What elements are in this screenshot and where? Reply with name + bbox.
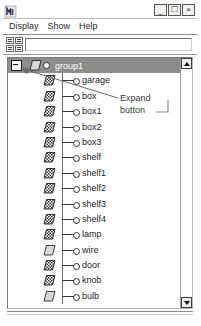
plain-parallelogram-icon (28, 59, 43, 72)
scroll-up-button[interactable] (181, 58, 192, 69)
tree-row[interactable]: shelf2 (8, 181, 180, 196)
node-dot-icon (73, 186, 80, 193)
application-window: _ □ × Display Show Help group1garageboxb… (3, 1, 197, 321)
node-dot-icon (73, 263, 80, 270)
tree-scrollbar[interactable] (180, 58, 192, 308)
menu-bar: Display Show Help (3, 19, 197, 35)
window-bottom-edge (7, 311, 193, 315)
tree-row-label: group1 (54, 61, 83, 71)
node-dot-icon (73, 109, 80, 116)
node-dot-icon (73, 202, 80, 209)
tree-row-label: shelf4 (82, 214, 106, 224)
tree-row-label: wire (82, 245, 99, 255)
hatched-parallelogram-icon (42, 136, 57, 149)
plain-parallelogram-icon (42, 290, 57, 303)
hatched-parallelogram-icon (42, 167, 57, 180)
tree-row-label: shelf1 (82, 168, 106, 178)
menu-item-display[interactable]: Display (9, 21, 39, 32)
menu-item-show[interactable]: Show (48, 21, 71, 32)
tree-row-label: door (82, 260, 100, 270)
hatched-parallelogram-icon (42, 105, 57, 118)
minimize-button[interactable]: _ (154, 4, 167, 16)
tree-row[interactable]: box1 (8, 104, 180, 119)
tree-row[interactable]: shelf3 (8, 197, 180, 212)
toolbar (3, 35, 197, 55)
hatched-parallelogram-icon (42, 274, 57, 287)
close-icon: × (183, 5, 194, 15)
node-dot-icon (73, 155, 80, 162)
tree-row-label: garage (82, 75, 110, 85)
node-dot-icon (73, 217, 80, 224)
tree-row-label: shelf2 (82, 183, 106, 193)
plain-parallelogram-icon (42, 244, 57, 257)
tree-row[interactable]: knob (8, 273, 180, 288)
tree-row-label: bulb (82, 291, 99, 301)
tree-row-label: lamp (82, 229, 102, 239)
hatched-parallelogram-icon (42, 74, 57, 87)
hatched-parallelogram-icon (42, 151, 57, 164)
hatched-parallelogram-icon (42, 90, 57, 103)
tree-row-label: box3 (82, 137, 102, 147)
tree-row-label: shelf (82, 152, 101, 162)
tree-row[interactable]: lamp (8, 227, 180, 242)
tree-list: group1garageboxbox1box2box3shelfshelf1sh… (8, 58, 180, 308)
search-input[interactable] (25, 38, 192, 51)
node-dot-icon (73, 125, 80, 132)
hatched-parallelogram-icon (42, 259, 57, 272)
node-dot-icon (43, 62, 50, 69)
app-logo-icon (4, 4, 17, 17)
node-grid-cell-1 (6, 37, 14, 44)
tree-panel: group1garageboxbox1box2box3shelfshelf1sh… (7, 57, 193, 309)
node-dot-icon (73, 294, 80, 301)
hatched-parallelogram-icon (42, 121, 57, 134)
tree-row-label: box (82, 91, 97, 101)
tree-row-label: box1 (82, 106, 102, 116)
maximize-icon: □ (169, 4, 180, 14)
node-grid-icon[interactable] (6, 37, 23, 52)
chevron-down-icon (184, 301, 190, 305)
node-dot-icon (73, 171, 80, 178)
node-grid-cell-2 (15, 37, 23, 44)
tree-row[interactable]: door (8, 258, 180, 273)
node-dot-icon (73, 78, 80, 85)
tree-row[interactable]: garage (8, 73, 180, 88)
hatched-parallelogram-icon (42, 182, 57, 195)
chevron-up-icon (184, 62, 190, 66)
menu-item-help[interactable]: Help (79, 21, 98, 32)
minimize-icon: _ (155, 6, 166, 16)
tree-row[interactable]: shelf1 (8, 166, 180, 181)
hatched-parallelogram-icon (42, 198, 57, 211)
node-dot-icon (73, 248, 80, 255)
tree-row[interactable]: box (8, 89, 180, 104)
scroll-down-button[interactable] (181, 297, 192, 308)
hatched-parallelogram-icon (42, 228, 57, 241)
tree-row[interactable]: wire (8, 243, 180, 258)
tree-row-label: knob (82, 275, 102, 285)
node-dot-icon (73, 94, 80, 101)
tree-row[interactable]: box3 (8, 135, 180, 150)
close-button[interactable]: × (182, 4, 195, 16)
maximize-button[interactable]: □ (168, 4, 181, 16)
tree-row[interactable]: box2 (8, 120, 180, 135)
tree-row-root[interactable]: group1 (8, 58, 180, 73)
tree-row[interactable]: shelf (8, 150, 180, 165)
tree-row[interactable]: bulb (8, 289, 180, 304)
hatched-parallelogram-icon (42, 213, 57, 226)
node-grid-cell-4 (15, 45, 23, 52)
node-dot-icon (73, 140, 80, 147)
tree-row-label: shelf3 (82, 199, 106, 209)
tree-row[interactable]: shelf4 (8, 212, 180, 227)
node-dot-icon (73, 278, 80, 285)
node-grid-cell-3 (6, 45, 14, 52)
expand-button[interactable] (11, 60, 22, 71)
node-dot-icon (73, 232, 80, 239)
title-bar: _ □ × (3, 1, 197, 19)
tree-row-label: box2 (82, 122, 102, 132)
window-controls: _ □ × (154, 4, 197, 16)
